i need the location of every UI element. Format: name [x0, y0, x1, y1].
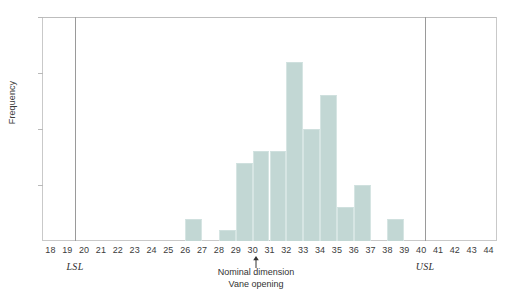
x-tick-label: 27 [193, 245, 211, 255]
x-tick-label: 44 [480, 245, 498, 255]
x-tick-label: 30 [244, 245, 262, 255]
x-tick-label: 29 [227, 245, 245, 255]
usl-label: USL [395, 262, 455, 272]
x-tick-label: 22 [109, 245, 127, 255]
histogram-bar [253, 151, 270, 241]
y-axis: 2015105 [0, 0, 42, 260]
x-tick-label: 34 [311, 245, 329, 255]
x-tick-label: 24 [143, 245, 161, 255]
x-tick-label: 33 [294, 245, 312, 255]
x-tick-label: 35 [328, 245, 346, 255]
x-tick-label: 21 [92, 245, 110, 255]
x-tick-label: 23 [126, 245, 144, 255]
x-tick-label: 31 [261, 245, 279, 255]
nominal-dimension-label: Nominal dimension [156, 267, 356, 278]
x-tick-label: 20 [75, 245, 93, 255]
x-tick-label: 38 [378, 245, 396, 255]
x-tick-label: 25 [159, 245, 177, 255]
x-tick-label: 43 [463, 245, 481, 255]
histogram-bar [320, 95, 337, 241]
histogram-figure: 2015105 Frequency LSL USL Nominal dimens… [0, 0, 511, 304]
x-tick-label: 18 [41, 245, 59, 255]
lsl-line [75, 17, 76, 241]
bars-layer [42, 17, 497, 241]
lsl-label: LSL [45, 262, 105, 272]
x-tick-label: 19 [58, 245, 76, 255]
vane-opening-label: Vane opening [156, 279, 356, 290]
x-tick-label: 39 [395, 245, 413, 255]
x-tick-label: 32 [277, 245, 295, 255]
x-tick-label: 42 [446, 245, 464, 255]
histogram-bar [270, 151, 287, 241]
histogram-bar [354, 185, 371, 241]
histogram-bar [286, 62, 303, 241]
histogram-bar [236, 163, 253, 241]
histogram-bar [303, 129, 320, 241]
x-tick-label: 36 [345, 245, 363, 255]
usl-line [425, 17, 426, 241]
histogram-bar [337, 207, 354, 241]
x-tick-label: 37 [362, 245, 380, 255]
histogram-bar [219, 230, 236, 241]
x-tick-label: 26 [176, 245, 194, 255]
y-axis-title: Frequency [8, 67, 17, 139]
histogram-bar [387, 219, 404, 241]
x-tick-label: 40 [412, 245, 430, 255]
histogram-bar [185, 219, 202, 241]
x-tick-label: 28 [210, 245, 228, 255]
x-tick-label: 41 [429, 245, 447, 255]
